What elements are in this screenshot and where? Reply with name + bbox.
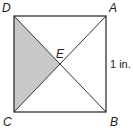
geometry-diagram: D A C B E 1 in. bbox=[0, 0, 133, 129]
vertex-label-d: D bbox=[2, 1, 11, 15]
vertex-label-a: A bbox=[108, 1, 117, 15]
shaded-triangle-dec bbox=[14, 16, 60, 112]
side-length-label: 1 in. bbox=[110, 58, 131, 70]
vertex-label-b: B bbox=[110, 115, 118, 129]
vertex-label-e: E bbox=[56, 47, 65, 61]
vertex-label-c: C bbox=[3, 115, 12, 129]
